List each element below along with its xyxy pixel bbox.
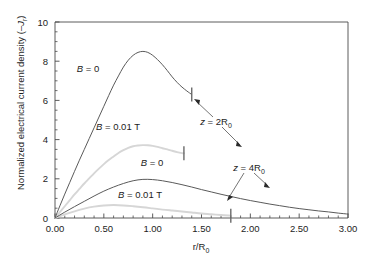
annotation-z-4r0: z = 4R0: [232, 162, 265, 175]
y-axis-ticks: [55, 22, 60, 218]
x-tick-label: 1.50: [192, 223, 211, 234]
y-tick-label: 6: [43, 95, 48, 106]
arrowhead-z4r0-right: [264, 182, 270, 188]
arrowhead-z2r0-lower: [236, 141, 242, 147]
data-curves: [55, 51, 348, 218]
leader-line-z4r0-left: [228, 173, 244, 199]
curve-label-b0-upper: B = 0: [77, 63, 99, 74]
annotation-z-4r0-subscript: 0: [261, 168, 265, 175]
arrowhead-z2r0-upper: [194, 99, 200, 105]
figure-container: 0.000.501.001.502.002.503.00 0246810 Nor…: [0, 0, 375, 268]
curve-label-b0-upper-value: = 0: [83, 63, 99, 74]
annotation-z-4r0-value: = 4R: [238, 162, 261, 173]
annotation-z-2r0-subscript: 0: [228, 122, 232, 129]
x-tick-label: 0.00: [46, 223, 65, 234]
curve-label-b001-upper: B = 0.01 T: [96, 121, 140, 132]
y-axis-title: Normalized electrical current density (–…: [15, 16, 28, 190]
annotation-z-2r0: z = 2R0: [199, 116, 232, 129]
y-tick-label: 10: [37, 17, 48, 28]
y-tick-label: 4: [43, 134, 48, 145]
y-tick-label: 8: [43, 56, 48, 67]
annotation-z-2r0-value: = 2R: [205, 116, 228, 127]
y-tick-label: 2: [43, 173, 48, 184]
curve-dark-z4r0: [55, 179, 348, 218]
x-tick-label: 2.50: [290, 223, 309, 234]
y-tick-label: 0: [43, 213, 48, 224]
chart-canvas: 0.000.501.001.502.002.503.00 0246810 Nor…: [0, 0, 375, 268]
x-axis-tick-labels: 0.000.501.001.502.002.503.00: [46, 223, 358, 234]
x-axis-title: r/R0: [193, 241, 210, 254]
x-axis-title-subscript: 0: [205, 247, 209, 254]
curve-label-b001-upper-value: = 0.01 T: [102, 121, 140, 132]
x-tick-label: 2.00: [241, 223, 260, 234]
y-axis-tick-labels: 0246810: [37, 17, 48, 224]
x-tick-label: 1.00: [143, 223, 162, 234]
curve-label-b001-lower: B = 0.01 T: [118, 189, 162, 200]
curve-label-b0-lower: B = 0: [141, 157, 163, 168]
curve-label-b0-lower-value: = 0: [147, 157, 163, 168]
y-axis-title-tail: ): [15, 16, 26, 19]
x-tick-label: 0.50: [95, 223, 114, 234]
y-axis-title-main: Normalized electrical current density (–: [15, 25, 26, 190]
x-axis-title-main: r/R: [193, 241, 206, 252]
curve-label-b001-lower-value: = 0.01 T: [124, 189, 162, 200]
x-tick-label: 3.00: [339, 223, 358, 234]
curve-endpoint-markers: [184, 88, 231, 223]
